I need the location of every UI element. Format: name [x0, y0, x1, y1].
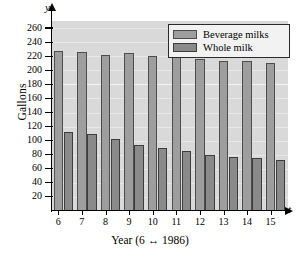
bar-whole-milk-15	[276, 160, 286, 211]
bar-whole-milk-10	[158, 148, 168, 211]
legend-swatch-icon-whole-milk	[173, 43, 197, 52]
y-axis-tick	[45, 70, 53, 71]
y-axis-tick-label: 40	[2, 177, 42, 187]
y-axis-tick	[45, 168, 53, 169]
y-axis-tick-label: 20	[2, 191, 42, 201]
y-axis-tick	[45, 126, 53, 127]
x-axis-tick	[247, 210, 248, 215]
y-axis-tick	[45, 182, 53, 183]
x-axis-tick-label: 13	[212, 216, 236, 227]
x-axis-tick-label: 7	[70, 216, 94, 227]
y-axis-tick-label: 260	[2, 23, 42, 33]
bar-whole-milk-6	[64, 132, 74, 212]
bar-whole-milk-8	[111, 139, 121, 211]
bar-whole-milk-13	[229, 157, 239, 211]
legend-swatch-icon-beverage-milks	[173, 30, 197, 39]
y-axis-tick	[45, 27, 53, 28]
x-axis-tick	[58, 210, 59, 215]
x-axis-tick	[176, 210, 177, 215]
bar-whole-milk-9	[134, 145, 144, 211]
x-axis-tick-label: 12	[188, 216, 212, 227]
gridline	[52, 113, 288, 114]
y-axis-tick-label: 60	[2, 163, 42, 173]
bar-beverage-milks-6	[54, 51, 64, 211]
x-axis-title: Year (6 ↔ 1986)	[0, 234, 300, 246]
legend-label-whole-milk: Whole milk	[203, 42, 253, 53]
legend-item-whole-milk: Whole milk	[173, 41, 285, 54]
x-axis-line	[51, 210, 289, 211]
y-axis-tick-label: 220	[2, 51, 42, 61]
legend-item-beverage-milks: Beverage milks	[173, 28, 285, 41]
x-axis-tick-label: 15	[259, 216, 283, 227]
bar-beverage-milks-9	[124, 53, 134, 211]
bar-beverage-milks-8	[101, 55, 111, 211]
y-axis-title: Gallons	[16, 62, 28, 142]
y-axis-tick-label: 240	[2, 37, 42, 47]
gridline	[52, 84, 288, 85]
gridline	[52, 98, 288, 99]
bar-beverage-milks-14	[242, 61, 252, 211]
y-axis-tick	[45, 42, 53, 43]
x-axis-tick	[106, 210, 107, 215]
x-axis-tick	[271, 210, 272, 215]
x-axis-tick-label: 6	[46, 216, 70, 227]
y-axis-tick	[45, 84, 53, 85]
legend-label-beverage-milks: Beverage milks	[203, 29, 269, 40]
bar-beverage-milks-15	[266, 63, 276, 212]
y-axis-tick	[45, 140, 53, 141]
x-axis-tick	[153, 210, 154, 215]
bar-beverage-milks-11	[172, 56, 182, 211]
bar-beverage-milks-12	[195, 59, 205, 211]
bar-whole-milk-12	[205, 155, 215, 211]
x-axis-tick	[129, 210, 130, 215]
bar-beverage-milks-10	[148, 56, 158, 212]
x-axis-tick-label: 10	[141, 216, 165, 227]
bar-beverage-milks-13	[219, 61, 229, 211]
y-axis-tick	[45, 196, 53, 197]
x-axis-tick	[200, 210, 201, 215]
y-axis-tick	[45, 154, 53, 155]
x-axis-tick	[224, 210, 225, 215]
y-axis-tick-label: 80	[2, 149, 42, 159]
x-axis-tick-label: 14	[235, 216, 259, 227]
bar-beverage-milks-7	[77, 52, 87, 211]
gridline	[52, 70, 288, 71]
chart-figure: y t 26024022020018016014012010080604020 …	[0, 0, 300, 257]
x-axis-tick-label: 11	[164, 216, 188, 227]
x-axis-tick-label: 8	[94, 216, 118, 227]
gridline	[52, 127, 288, 128]
y-axis-tick	[45, 112, 53, 113]
y-axis-arrow-icon	[48, 3, 56, 11]
bar-whole-milk-11	[182, 151, 192, 212]
bar-whole-milk-14	[252, 158, 262, 211]
x-axis-arrow-icon	[285, 207, 293, 215]
x-axis-tick-label: 9	[117, 216, 141, 227]
bar-whole-milk-7	[87, 134, 97, 211]
y-axis-tick	[45, 56, 53, 57]
x-axis-tick	[82, 210, 83, 215]
chart-legend: Beverage milks Whole milk	[168, 24, 290, 58]
y-axis-tick	[45, 98, 53, 99]
